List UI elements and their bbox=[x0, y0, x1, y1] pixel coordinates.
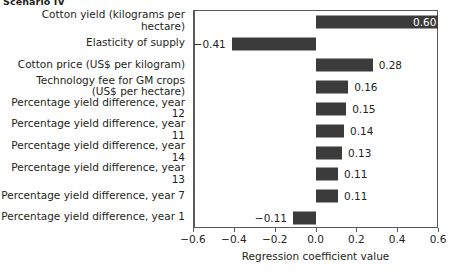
x-axis-tick-label: −0.2 bbox=[262, 233, 288, 245]
bar-value-label: −0.11 bbox=[255, 213, 287, 224]
y-axis-label: Cotton price (US$ per kilogram) bbox=[0, 54, 189, 76]
x-axis-tick-label: 0.4 bbox=[389, 233, 406, 245]
bar-row: −0.41 bbox=[194, 33, 437, 55]
y-axis-label: Percentage yield difference, year 13 bbox=[0, 163, 189, 185]
x-axis-title: Regression coefficient value bbox=[193, 250, 438, 262]
bar bbox=[316, 190, 338, 203]
x-axis-tick bbox=[397, 228, 398, 232]
bar-value-label: −0.41 bbox=[194, 38, 226, 49]
bar-value-label: 0.11 bbox=[344, 191, 367, 202]
y-axis-label: Percentage yield difference, year 14 bbox=[0, 141, 189, 163]
bar-row: −0.11 bbox=[194, 207, 437, 229]
y-axis-label: Elasticity of supply bbox=[0, 32, 189, 54]
bar-value-label: 0.16 bbox=[354, 82, 377, 93]
bar-value-label: 0.60 bbox=[413, 17, 436, 28]
bar bbox=[232, 37, 316, 50]
y-axis-label: Percentage yield difference, year 1 bbox=[0, 206, 189, 228]
x-axis-tick bbox=[193, 228, 194, 232]
x-axis-tick bbox=[275, 228, 276, 232]
bar-row: 0.11 bbox=[194, 164, 437, 186]
bar bbox=[316, 146, 343, 159]
x-axis-tick-label: 0.0 bbox=[307, 233, 324, 245]
y-axis-label: Percentage yield difference, year 12 bbox=[0, 97, 189, 119]
bar-value-label: 0.14 bbox=[350, 126, 373, 137]
x-axis-tick bbox=[234, 228, 235, 232]
x-axis-tick-label: −0.6 bbox=[180, 233, 206, 245]
y-axis-label: Percentage yield difference, year 11 bbox=[0, 119, 189, 141]
bar bbox=[316, 168, 338, 181]
bar-value-label: 0.13 bbox=[348, 147, 371, 158]
bar-row: 0.11 bbox=[194, 185, 437, 207]
bar-value-label: 0.28 bbox=[379, 60, 402, 71]
bar-row: 0.15 bbox=[194, 98, 437, 120]
bar bbox=[316, 103, 347, 116]
chart-title: Scenario IV bbox=[3, 0, 65, 7]
bar-row: 0.16 bbox=[194, 76, 437, 98]
plot-area: 0.60−0.410.280.160.150.140.130.110.11−0.… bbox=[193, 10, 438, 228]
bar-row: 0.13 bbox=[194, 142, 437, 164]
x-axis-tick bbox=[438, 228, 439, 232]
bar-value-label: 0.11 bbox=[344, 169, 367, 180]
y-axis-label: Percentage yield difference, year 7 bbox=[0, 184, 189, 206]
bar bbox=[316, 124, 345, 137]
x-axis-tick-label: −0.4 bbox=[221, 233, 247, 245]
bar-value-label: 0.15 bbox=[352, 104, 375, 115]
y-axis-category-labels: Cotton yield (kilograms per hectare)Elas… bbox=[0, 10, 189, 228]
bar bbox=[316, 59, 373, 72]
bar-row: 0.28 bbox=[194, 55, 437, 77]
x-axis-tick bbox=[316, 228, 317, 232]
bar-row: 0.60 bbox=[194, 11, 437, 33]
bar bbox=[316, 81, 349, 94]
chart-figure: Scenario IV Cotton yield (kilograms per … bbox=[0, 0, 460, 273]
y-axis-label: Technology fee for GM crops(US$ per hect… bbox=[0, 75, 189, 97]
y-axis-label: Cotton yield (kilograms per hectare) bbox=[0, 10, 189, 32]
bar bbox=[293, 212, 315, 225]
x-axis-tick bbox=[356, 228, 357, 232]
bar-row: 0.14 bbox=[194, 120, 437, 142]
x-axis-tick-label: 0.6 bbox=[430, 233, 447, 245]
x-axis-tick-label: 0.2 bbox=[348, 233, 365, 245]
